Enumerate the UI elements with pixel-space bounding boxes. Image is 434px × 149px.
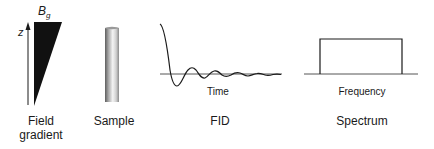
time-axis-label: Time xyxy=(207,86,229,98)
b-symbol: B xyxy=(38,4,46,18)
sample-graphic xyxy=(105,27,119,102)
fid-curve xyxy=(160,24,281,86)
frequency-axis-label: Frequency xyxy=(338,86,385,98)
field-gradient-caption-line1: Field xyxy=(28,114,54,128)
field-gradient-caption-line2: gradient xyxy=(19,128,62,142)
field-gradient-graphic xyxy=(26,22,63,106)
fid-graphic xyxy=(160,24,282,86)
gradient-wedge xyxy=(34,22,62,106)
z-axis-label: z xyxy=(18,26,24,38)
sample-cylinder xyxy=(105,28,119,102)
sample-caption: Sample xyxy=(94,114,135,128)
spectrum-caption: Spectrum xyxy=(336,114,387,128)
z-axis-arrowhead-icon xyxy=(26,22,31,30)
fid-caption: FID xyxy=(210,114,229,128)
g-subscript: g xyxy=(46,11,50,20)
spectrum-graphic xyxy=(304,39,418,74)
spectrum-rect xyxy=(320,39,402,74)
sample-top xyxy=(105,27,119,29)
b-g-symbol: Bg xyxy=(38,5,50,19)
